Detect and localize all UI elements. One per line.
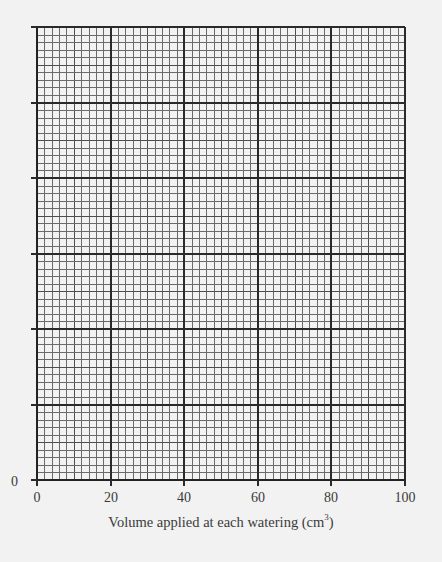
x-axis-tick-label-60: 60 xyxy=(251,490,265,506)
x-axis-title-superscript: 3 xyxy=(324,512,329,522)
graph-paper-grid xyxy=(0,0,442,562)
x-axis-title-suffix: ) xyxy=(329,514,334,530)
x-axis-tick-label-80: 80 xyxy=(324,490,338,506)
y-axis-tick-label-0: 0 xyxy=(11,474,18,490)
x-axis-tick-label-100: 100 xyxy=(395,490,416,506)
x-axis-title-text: Volume applied at each watering (cm xyxy=(108,514,324,530)
x-axis-tick-label-20: 20 xyxy=(104,490,118,506)
x-axis-title: Volume applied at each watering (cm3) xyxy=(108,513,333,531)
major-grid-lines xyxy=(31,27,405,486)
x-axis-tick-label-0: 0 xyxy=(34,490,41,506)
x-axis-tick-label-40: 40 xyxy=(177,490,191,506)
axis-ticks xyxy=(31,27,405,486)
